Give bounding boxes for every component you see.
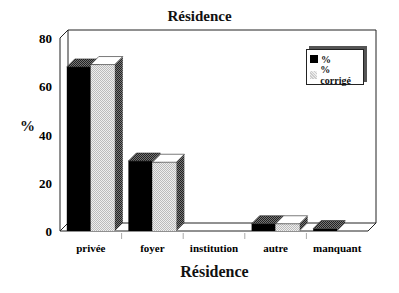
legend-swatch-black bbox=[310, 55, 318, 63]
legend-label: % corrigé bbox=[320, 64, 360, 86]
legend: % % corrigé bbox=[306, 49, 364, 85]
legend-item-percent-corrige: % corrigé bbox=[310, 68, 360, 82]
legend-swatch-grey bbox=[310, 71, 317, 79]
x-category-label: privée bbox=[76, 242, 105, 254]
legend-label: % bbox=[321, 54, 331, 65]
x-category-label: institution bbox=[190, 242, 238, 254]
y-tick-label: 40 bbox=[39, 128, 52, 143]
bar bbox=[152, 154, 184, 231]
y-tick-label: 60 bbox=[39, 79, 52, 94]
bar bbox=[313, 221, 345, 231]
bar-chart: 020406080 privéefoyerinstitutionautreman… bbox=[0, 0, 399, 293]
x-category-label: foyer bbox=[140, 242, 165, 254]
y-tick-label: 0 bbox=[46, 224, 53, 239]
bar bbox=[91, 57, 123, 231]
x-category-label: manquant bbox=[313, 242, 362, 254]
y-tick-label: 80 bbox=[39, 31, 52, 46]
x-category-label: autre bbox=[263, 242, 288, 254]
y-tick-label: 20 bbox=[39, 176, 52, 191]
